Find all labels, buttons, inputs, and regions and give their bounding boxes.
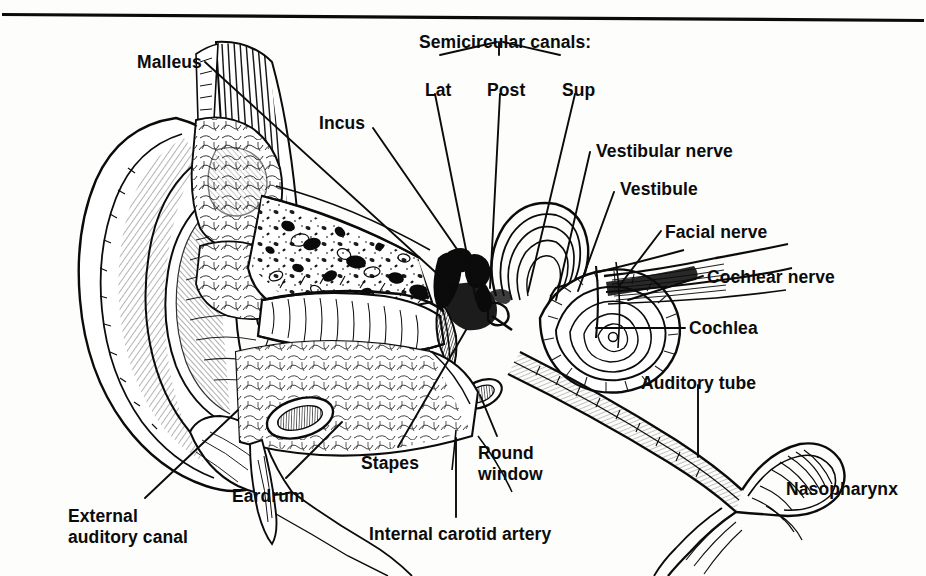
top-rule [2, 15, 924, 21]
label-vestibular-nerve: Vestibular nerve [596, 141, 733, 162]
label-incus: Incus [319, 113, 365, 134]
label-sup: Sup [562, 80, 595, 101]
label-stapes: Stapes [361, 453, 419, 474]
label-nasopharynx: Nasopharynx [786, 479, 898, 500]
label-facial-nerve: Facial nerve [665, 222, 767, 243]
label-eardrum: Eardrum [232, 486, 305, 507]
label-semicircular-canals: Semicircular canals: [419, 32, 591, 53]
label-vestibule: Vestibule [620, 179, 698, 200]
label-post: Post [487, 80, 525, 101]
label-cochlear-nerve: Cochlear nerve [707, 267, 835, 288]
petrous-temporal-bone [230, 330, 490, 544]
label-external-auditory-canal: External auditory canal [68, 506, 188, 547]
label-round-window: Round window [478, 443, 543, 484]
label-malleus: Malleus [137, 52, 202, 73]
label-internal-carotid-artery: Internal carotid artery [369, 524, 551, 545]
leader-post [490, 94, 500, 288]
label-auditory-tube: Auditory tube [641, 373, 756, 394]
label-cochlea: Cochlea [689, 318, 758, 339]
figure-page: Semicircular canals:MalleusIncusLatPostS… [0, 0, 926, 576]
label-lat: Lat [425, 80, 452, 101]
